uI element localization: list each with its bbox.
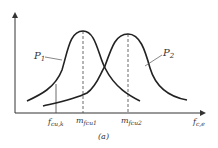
label-fcuk: fcu,k bbox=[47, 117, 64, 127]
axes bbox=[12, 12, 206, 116]
label-mfcu2: mfcu2 bbox=[121, 116, 142, 127]
caption: (a) bbox=[98, 132, 109, 141]
label-x-axis: fc,e bbox=[192, 117, 205, 127]
label-p1: P1 bbox=[33, 50, 45, 63]
curve-p1 bbox=[27, 31, 140, 101]
curve-p2 bbox=[43, 34, 187, 106]
label-p2: P2 bbox=[162, 47, 175, 60]
label-mfcu1: mfcu1 bbox=[76, 116, 97, 127]
diagram: P1 P2 fcu,k mfcu1 mfcu2 fc,e (a) bbox=[0, 0, 218, 148]
